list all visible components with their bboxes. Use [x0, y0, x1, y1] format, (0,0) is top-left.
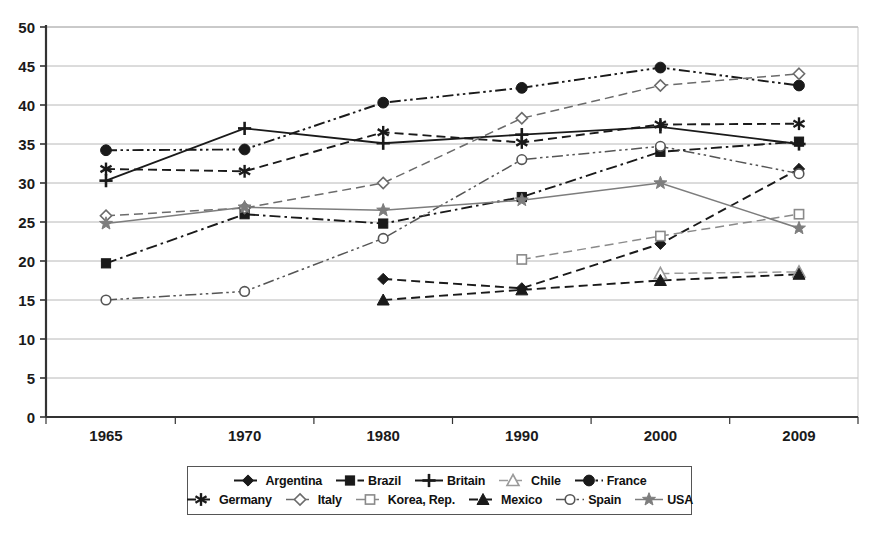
legend-item-mexico[interactable]: Mexico [468, 492, 542, 507]
data-point-marker [794, 210, 803, 219]
data-point-marker [794, 169, 804, 179]
data-point-marker [101, 145, 112, 156]
series-line [383, 274, 799, 300]
data-point-marker [99, 174, 112, 187]
legend-key-open-triangle-icon [498, 473, 528, 488]
x-tick-label: 2000 [644, 427, 677, 444]
x-axis-ticks: 196519701980199020002009 [46, 417, 858, 444]
data-point-marker [294, 494, 305, 505]
data-point-marker [517, 155, 527, 165]
legend-key-open-diamond-icon [285, 492, 315, 507]
series-line [106, 142, 799, 264]
y-tick-label: 50 [18, 19, 35, 36]
legend-key-filled-square-icon [335, 473, 365, 488]
y-tick-label: 0 [27, 409, 35, 426]
y-tick-label: 25 [18, 214, 35, 231]
data-point-marker [101, 259, 110, 268]
series-path [383, 169, 799, 288]
legend-item-chile[interactable]: Chile [498, 473, 561, 488]
legend-row-2: GermanyItalyKorea, Rep.MexicoSpainUSA [194, 490, 685, 509]
legend-label: France [607, 474, 647, 488]
legend-key-filled-triangle-icon [468, 492, 498, 507]
legend-label: Britain [447, 474, 485, 488]
y-tick-label: 15 [18, 292, 35, 309]
x-tick-label: 1980 [367, 427, 400, 444]
data-point-marker [378, 273, 389, 284]
data-point-marker [422, 474, 435, 487]
legend-label: Germany [219, 493, 272, 507]
data-point-marker [377, 204, 390, 216]
series-markers [517, 210, 803, 264]
chart-canvas: 0510152025303540455019651970198019902000… [0, 0, 878, 470]
series-path [106, 127, 799, 181]
series-line [106, 146, 799, 300]
data-point-marker [101, 295, 111, 305]
data-point-marker [655, 80, 666, 91]
series-line [660, 272, 799, 274]
series-line [383, 169, 799, 288]
data-point-marker [517, 255, 526, 264]
data-point-marker [239, 144, 250, 155]
legend-item-britain[interactable]: Britain [414, 473, 485, 488]
y-axis-ticks: 05101520253035404550 [18, 19, 46, 426]
data-point-marker [100, 217, 113, 229]
series-line [106, 183, 799, 228]
data-point-marker [378, 177, 389, 188]
legend-label: Brazil [368, 474, 401, 488]
data-point-marker [793, 117, 804, 130]
series-line [106, 127, 799, 181]
series-path [660, 272, 799, 274]
data-point-marker [793, 68, 804, 79]
marker-layer [99, 62, 805, 305]
y-tick-label: 40 [18, 97, 35, 114]
legend-item-italy[interactable]: Italy [285, 492, 342, 507]
series-path [106, 183, 799, 228]
data-point-marker [378, 234, 388, 244]
legend-label: Spain [588, 493, 621, 507]
legend-label: Italy [318, 493, 342, 507]
x-tick-label: 2009 [782, 427, 815, 444]
legend-item-korea-rep[interactable]: Korea, Rep. [355, 492, 455, 507]
series-path [106, 142, 799, 264]
series-markers [101, 62, 805, 155]
legend-label: Korea, Rep. [388, 493, 455, 507]
legend-item-spain[interactable]: Spain [555, 492, 621, 507]
series-markers [101, 137, 803, 268]
axes [46, 25, 858, 417]
data-point-marker [656, 142, 666, 152]
data-point-marker [379, 219, 388, 228]
data-point-marker [238, 122, 251, 135]
legend-item-brazil[interactable]: Brazil [335, 473, 401, 488]
y-tick-label: 45 [18, 58, 35, 75]
legend-label: USA [667, 493, 693, 507]
data-point-marker [655, 62, 666, 73]
y-tick-label: 35 [18, 136, 35, 153]
series-path [106, 146, 799, 300]
legend-item-france[interactable]: France [574, 473, 647, 488]
x-tick-label: 1990 [505, 427, 538, 444]
data-point-marker [516, 82, 527, 93]
data-point-marker [565, 495, 575, 505]
legend-key-plus-icon [414, 473, 444, 488]
series-markers [654, 266, 805, 279]
series-markers [100, 117, 804, 177]
legend-item-germany[interactable]: Germany [186, 492, 272, 507]
series-markers [377, 268, 805, 305]
data-point-marker [242, 475, 253, 486]
line-chart: 0510152025303540455019651970198019902000… [0, 0, 878, 545]
legend-label: Chile [531, 474, 561, 488]
data-point-marker [365, 495, 374, 504]
legend-item-usa[interactable]: USA [634, 492, 693, 507]
legend-key-asterisk-icon [186, 492, 216, 507]
data-point-marker [656, 231, 665, 240]
data-point-marker [240, 287, 250, 297]
y-tick-label: 30 [18, 175, 35, 192]
x-tick-label: 1970 [228, 427, 261, 444]
x-tick-label: 1965 [89, 427, 122, 444]
legend-label: Mexico [501, 493, 542, 507]
legend-key-filled-circle-icon [574, 473, 604, 488]
legend-item-argentina[interactable]: Argentina [233, 473, 323, 488]
data-point-marker [643, 493, 656, 505]
y-tick-label: 5 [27, 370, 35, 387]
y-tick-label: 20 [18, 253, 35, 270]
